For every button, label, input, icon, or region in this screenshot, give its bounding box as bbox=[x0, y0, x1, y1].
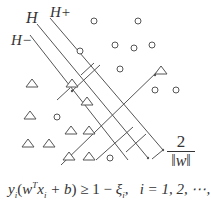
formula-w: w bbox=[22, 181, 32, 197]
positive-margin-label: H+ bbox=[50, 4, 71, 21]
positive-sample-circle bbox=[91, 18, 97, 24]
negative-sample-triangle bbox=[24, 111, 36, 119]
positive-sample-circle bbox=[149, 42, 155, 48]
connector-to-circle bbox=[57, 88, 70, 100]
svm-diagram: H H+ H− 2 ‖w‖ yi(wTxi + b) ≥ 1 − ξi, i =… bbox=[0, 0, 211, 212]
positive-sample-circle bbox=[135, 18, 141, 24]
formula-y: y bbox=[8, 181, 15, 197]
negative-sample-triangle bbox=[65, 126, 77, 134]
margin-cross-2 bbox=[126, 134, 146, 152]
formula-relation: ≥ 1 − bbox=[77, 181, 116, 197]
hyperplane-line bbox=[37, 24, 148, 158]
support-vector-circle bbox=[54, 114, 60, 120]
positive-sample-circle bbox=[131, 45, 137, 51]
margin-endpoint-dot bbox=[162, 149, 164, 151]
positive-sample-circle bbox=[117, 66, 123, 72]
formula-x: x bbox=[37, 181, 44, 197]
margin-endpoint-dot bbox=[147, 157, 149, 159]
positive-sample-circle bbox=[152, 87, 158, 93]
support-vector-triangle bbox=[155, 66, 167, 74]
negative-sample-triangle bbox=[43, 139, 55, 147]
negative-sample-triangle bbox=[81, 97, 93, 105]
support-vector-circle bbox=[107, 155, 113, 161]
connector-dot bbox=[71, 90, 73, 92]
margin-box-top bbox=[96, 127, 133, 160]
margin-width-denominator: ‖w‖ bbox=[167, 153, 195, 169]
support-vector-circle bbox=[77, 48, 83, 54]
connector-dot bbox=[154, 74, 156, 76]
negative-margin-label: H− bbox=[11, 32, 32, 49]
negative-sample-triangle bbox=[26, 79, 38, 87]
negative-sample-triangle bbox=[22, 139, 34, 147]
positive-sample-circle bbox=[112, 42, 118, 48]
hyperplane-label: H bbox=[26, 9, 38, 27]
formula-index-range: i = 1, 2, ⋯, n bbox=[140, 181, 211, 197]
margin-width-fraction: 2 ‖w‖ bbox=[167, 133, 195, 169]
positive-margin-line bbox=[50, 18, 163, 150]
negative-sample-triangle bbox=[83, 152, 95, 160]
positive-sample-circle bbox=[173, 87, 179, 93]
negative-sample-triangle bbox=[83, 126, 95, 134]
svm-constraint-formula: yi(wTxi + b) ≥ 1 − ξi, i = 1, 2, ⋯, n bbox=[8, 180, 211, 200]
formula-separator: , bbox=[125, 181, 129, 197]
margin-width-numerator: 2 bbox=[167, 133, 195, 150]
connector-upper bbox=[81, 63, 94, 75]
margin-width-marker bbox=[128, 150, 163, 160]
formula-plus-b: + b bbox=[46, 181, 71, 197]
